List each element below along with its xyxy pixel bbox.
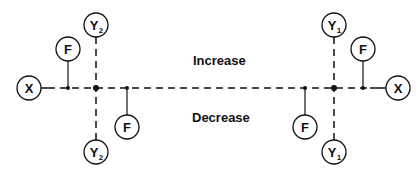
junction-dot-f-left-bottom (125, 86, 129, 90)
svg-text:F: F (301, 120, 309, 135)
node-y2-bottom: Y 2 (84, 140, 108, 164)
svg-text:F: F (123, 120, 131, 135)
node-f-left-top: F (56, 37, 80, 61)
svg-text:Y: Y (90, 18, 99, 33)
svg-text:1: 1 (337, 153, 342, 162)
junction-dot-y1 (331, 85, 337, 91)
svg-text:2: 2 (99, 26, 104, 35)
decrease-label: Decrease (192, 110, 250, 125)
svg-text:Y: Y (328, 145, 337, 160)
svg-text:Y: Y (90, 145, 99, 160)
node-y1-top: Y 1 (322, 13, 346, 37)
node-f-left-bottom: F (115, 115, 139, 139)
node-y1-bottom: Y 1 (322, 140, 346, 164)
svg-text:X: X (394, 81, 403, 96)
diagram-canvas: X X F F F F Y 2 Y 2 Y 1 (0, 0, 420, 178)
junction-dot-f-right-bottom (303, 86, 307, 90)
svg-text:1: 1 (337, 26, 342, 35)
increase-label: Increase (193, 53, 246, 68)
node-f-right-top: F (351, 37, 375, 61)
svg-text:F: F (64, 42, 72, 57)
node-f-right-bottom: F (293, 115, 317, 139)
junction-dot-f-right-top (361, 86, 365, 90)
node-y2-top: Y 2 (84, 13, 108, 37)
svg-text:F: F (359, 42, 367, 57)
svg-text:2: 2 (99, 153, 104, 162)
node-x-left: X (17, 76, 41, 100)
junction-dot-f-left-top (66, 86, 70, 90)
node-x-right: X (386, 76, 410, 100)
junction-dot-y2 (93, 85, 99, 91)
svg-text:Y: Y (328, 18, 337, 33)
svg-text:X: X (25, 81, 34, 96)
